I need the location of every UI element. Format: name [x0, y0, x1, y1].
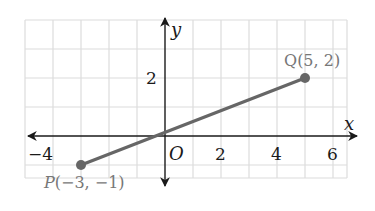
point-q: [300, 73, 310, 83]
x-tick-4: 4: [271, 144, 282, 164]
point-q-name: Q: [284, 51, 297, 70]
point-q-coords: (5, 2): [297, 51, 340, 70]
x-tick-6: 6: [327, 144, 338, 164]
point-q-label: Q(5, 2): [284, 51, 340, 70]
point-p-coords: (−3, −1): [55, 173, 125, 192]
point-p-name: P: [43, 173, 55, 192]
point-p: [76, 160, 86, 170]
x-tick-neg4: −4: [28, 144, 53, 164]
point-p-label: P(−3, −1): [43, 173, 125, 192]
coordinate-plane: x y −4 2 4 6 2 O P(−3, −1) Q(5, 2): [0, 0, 375, 211]
origin-label: O: [169, 143, 184, 164]
x-tick-2: 2: [215, 144, 226, 164]
grid: [25, 20, 347, 178]
x-axis-label: x: [344, 113, 354, 134]
y-tick-2: 2: [146, 68, 157, 88]
y-axis-label: y: [170, 19, 182, 40]
